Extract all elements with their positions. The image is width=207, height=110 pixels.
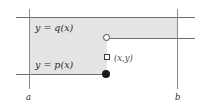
right-bound-vertical-line — [177, 9, 178, 89]
upper-curve-label: y = q(x) — [35, 23, 73, 33]
filled-circle-icon — [102, 70, 110, 78]
open-square-icon — [104, 54, 110, 60]
math-region-figure: y = q(x) y = p(x) (x,y) a b — [0, 0, 207, 110]
left-bound-label: a — [26, 93, 31, 102]
lower-curve-label: y = p(x) — [35, 60, 73, 70]
upper-curve-line — [16, 17, 195, 18]
point-coordinate-label: (x,y) — [114, 54, 133, 63]
right-bound-label: b — [175, 93, 180, 102]
left-bound-vertical-line — [29, 9, 30, 89]
shaded-region-right — [107, 18, 177, 39]
open-circle-icon — [103, 34, 110, 41]
point-level-line — [107, 38, 195, 39]
